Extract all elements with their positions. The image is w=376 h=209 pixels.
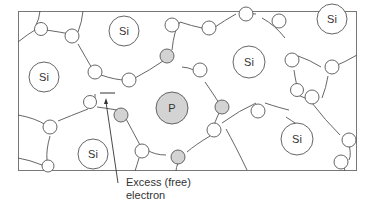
svg-text:Si: Si — [88, 148, 98, 160]
atom-phosphorus: P — [156, 92, 188, 124]
atom-si-5: Si — [281, 123, 313, 155]
atom-si-1: Si — [109, 16, 139, 46]
svg-text:Si: Si — [119, 25, 129, 37]
arrowhead-icon — [104, 98, 108, 104]
svg-text:Si: Si — [39, 71, 49, 83]
silicon-lattice-diagram: Si Si Si Si P Si Si Excess (free) electr… — [0, 0, 376, 209]
electron-label-line1: Excess (free) — [126, 176, 191, 188]
atom-si-3: Si — [233, 46, 265, 78]
svg-text:Si: Si — [244, 56, 254, 68]
svg-text:Si: Si — [292, 133, 302, 145]
svg-text:Si: Si — [327, 13, 337, 25]
svg-text:P: P — [168, 102, 175, 114]
electron-label-line2: electron — [126, 189, 165, 201]
atom-si-4: Si — [317, 4, 347, 34]
atom-si-2: Si — [29, 62, 59, 92]
atom-si-6: Si — [78, 139, 108, 169]
